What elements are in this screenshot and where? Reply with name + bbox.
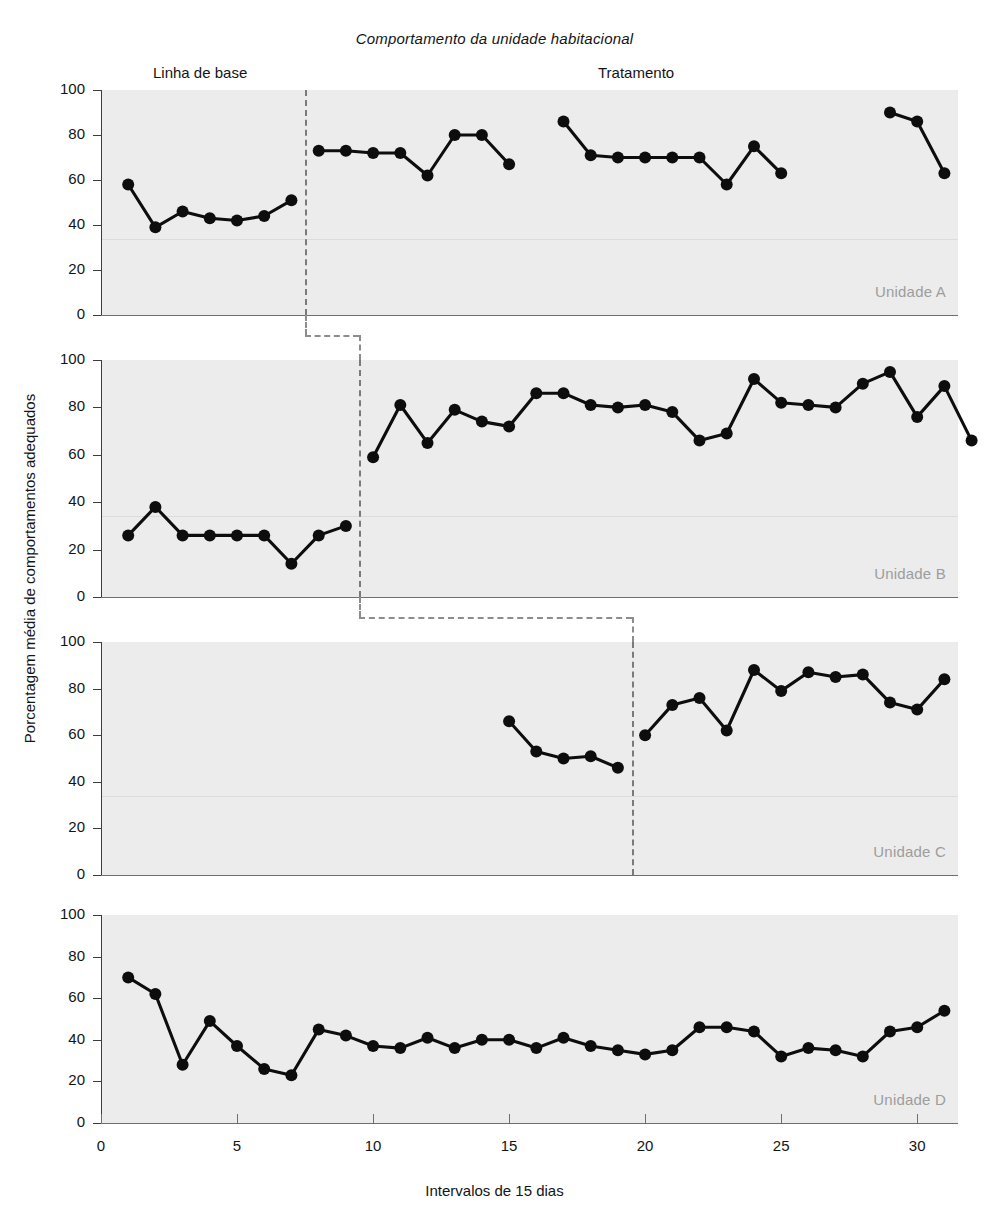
x-tick bbox=[237, 1114, 238, 1123]
data-point bbox=[476, 129, 488, 141]
data-point bbox=[449, 1042, 461, 1054]
connector-segment bbox=[359, 335, 361, 360]
data-point bbox=[558, 753, 570, 765]
data-point bbox=[122, 971, 134, 983]
data-point bbox=[476, 416, 488, 428]
x-tick-label: 30 bbox=[897, 1137, 937, 1154]
data-point bbox=[612, 152, 624, 164]
x-axis-line bbox=[101, 597, 958, 598]
data-point bbox=[367, 451, 379, 463]
data-point bbox=[775, 397, 787, 409]
unit-label: Unidade A bbox=[875, 283, 946, 300]
figure-title: Comportamento da unidade habitacional bbox=[0, 30, 989, 47]
x-tick-label: 0 bbox=[81, 1137, 121, 1154]
data-point bbox=[694, 1021, 706, 1033]
x-tick bbox=[645, 1114, 646, 1123]
data-point bbox=[204, 212, 216, 224]
x-tick-label: 10 bbox=[353, 1137, 393, 1154]
x-axis-line bbox=[101, 1123, 958, 1124]
data-point bbox=[857, 378, 869, 390]
data-point bbox=[721, 1021, 733, 1033]
data-point bbox=[340, 1030, 352, 1042]
data-point bbox=[884, 107, 896, 119]
data-point bbox=[938, 673, 950, 685]
data-point bbox=[313, 529, 325, 541]
data-point bbox=[476, 1034, 488, 1046]
data-point bbox=[231, 215, 243, 227]
data-point bbox=[612, 401, 624, 413]
data-point bbox=[721, 179, 733, 191]
data-point bbox=[367, 1040, 379, 1052]
data-point bbox=[530, 746, 542, 758]
panel-unidade-b: 020406080100Unidade B bbox=[0, 360, 989, 597]
data-point bbox=[802, 1042, 814, 1054]
data-point bbox=[666, 699, 678, 711]
x-tick bbox=[781, 1114, 782, 1123]
data-point bbox=[585, 399, 597, 411]
x-tick-label: 20 bbox=[625, 1137, 665, 1154]
x-tick bbox=[917, 1114, 918, 1123]
data-point bbox=[313, 145, 325, 157]
data-point bbox=[231, 529, 243, 541]
data-point bbox=[177, 1059, 189, 1071]
data-point bbox=[612, 762, 624, 774]
data-point bbox=[802, 399, 814, 411]
data-point bbox=[748, 140, 760, 152]
series-canvas bbox=[0, 90, 989, 315]
x-tick-label: 15 bbox=[489, 1137, 529, 1154]
data-point bbox=[748, 664, 760, 676]
connector-segment bbox=[359, 617, 631, 619]
data-point bbox=[503, 715, 515, 727]
data-point bbox=[122, 179, 134, 191]
data-point bbox=[694, 152, 706, 164]
data-point bbox=[911, 704, 923, 716]
data-point bbox=[884, 697, 896, 709]
figure-root: Comportamento da unidade habitacional Li… bbox=[0, 0, 989, 1222]
data-point bbox=[666, 406, 678, 418]
x-axis-line bbox=[101, 875, 958, 876]
data-point bbox=[666, 1044, 678, 1056]
data-point bbox=[122, 529, 134, 541]
connector-segment bbox=[305, 335, 359, 337]
data-point bbox=[830, 1044, 842, 1056]
x-tick-label: 5 bbox=[217, 1137, 257, 1154]
data-point bbox=[775, 1050, 787, 1062]
panel-unidade-a: 020406080100Unidade A bbox=[0, 90, 989, 315]
data-point bbox=[830, 671, 842, 683]
data-point bbox=[394, 399, 406, 411]
data-point bbox=[748, 373, 760, 385]
panel-unidade-c: 020406080100Unidade C bbox=[0, 642, 989, 875]
data-point bbox=[558, 387, 570, 399]
data-point bbox=[285, 558, 297, 570]
data-point bbox=[884, 1026, 896, 1038]
unit-label: Unidade B bbox=[874, 565, 946, 582]
series-canvas bbox=[0, 915, 989, 1123]
data-point bbox=[177, 206, 189, 218]
unit-label: Unidade D bbox=[873, 1091, 946, 1108]
data-point bbox=[938, 380, 950, 392]
data-point bbox=[639, 152, 651, 164]
series-line bbox=[645, 670, 944, 735]
connector-segment bbox=[632, 617, 634, 642]
data-point bbox=[204, 529, 216, 541]
data-point bbox=[585, 1040, 597, 1052]
data-point bbox=[748, 1026, 760, 1038]
panel-unidade-d: 020406080100Unidade D bbox=[0, 915, 989, 1123]
data-point bbox=[911, 411, 923, 423]
data-point bbox=[612, 1044, 624, 1056]
data-point bbox=[530, 1042, 542, 1054]
y-tick bbox=[93, 315, 101, 316]
unit-label: Unidade C bbox=[873, 843, 946, 860]
data-point bbox=[149, 221, 161, 233]
data-point bbox=[503, 1034, 515, 1046]
data-point bbox=[149, 988, 161, 1000]
x-tick-label: 25 bbox=[761, 1137, 801, 1154]
data-point bbox=[340, 145, 352, 157]
data-point bbox=[558, 116, 570, 128]
data-point bbox=[149, 501, 161, 513]
data-point bbox=[857, 669, 869, 681]
data-point bbox=[422, 437, 434, 449]
data-point bbox=[911, 116, 923, 128]
data-point bbox=[340, 520, 352, 532]
data-point bbox=[177, 529, 189, 541]
